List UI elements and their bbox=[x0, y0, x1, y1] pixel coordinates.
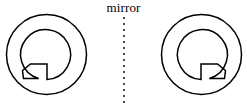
right-inner-c-with-tab bbox=[177, 30, 227, 80]
right-washer bbox=[162, 15, 242, 95]
left-washer bbox=[7, 15, 87, 95]
mirror-chirality-figure bbox=[0, 0, 247, 108]
mirror-label: mirror bbox=[0, 0, 247, 15]
right-outer-circle bbox=[162, 15, 242, 95]
figure-container: mirror bbox=[0, 0, 247, 108]
left-outer-circle bbox=[7, 15, 87, 95]
left-inner-c-with-tab bbox=[21, 30, 71, 80]
